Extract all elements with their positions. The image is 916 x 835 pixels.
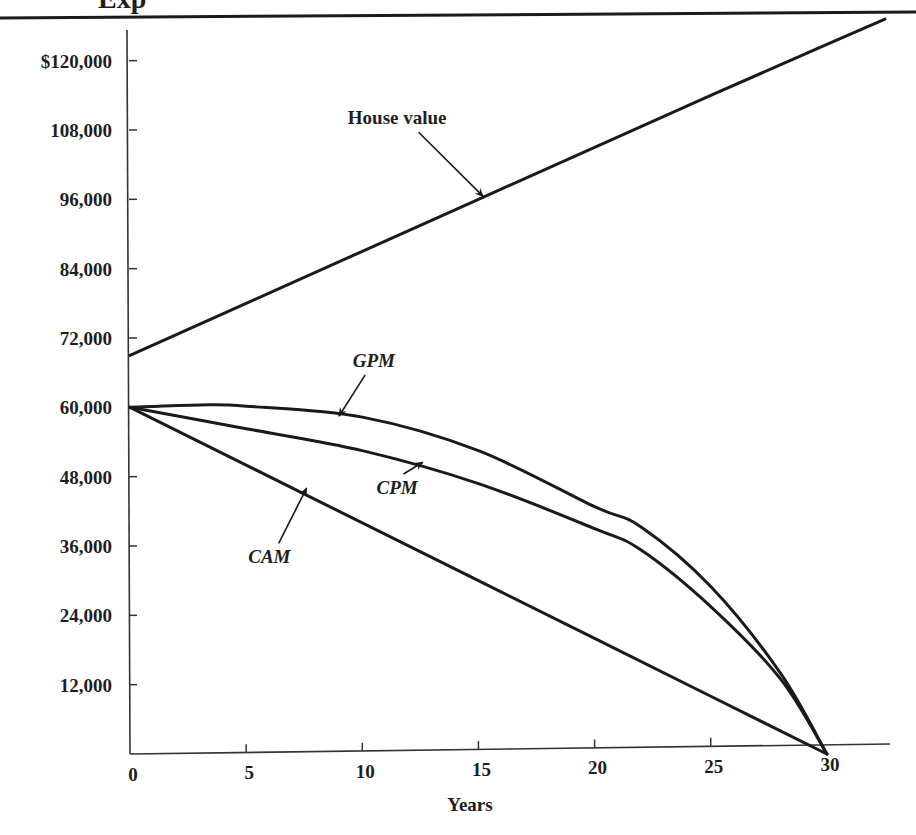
x-tick-label: 10 bbox=[356, 761, 375, 782]
y-tick-label: 108,000 bbox=[50, 120, 112, 141]
series-cam-line bbox=[130, 407, 827, 754]
x-tick-label: 20 bbox=[588, 757, 607, 778]
annotation-cpm-label: CPM bbox=[377, 477, 419, 498]
y-tick-label: 60,000 bbox=[60, 397, 112, 418]
x-axis-title: Years bbox=[447, 794, 492, 815]
y-tick-label: 72,000 bbox=[60, 328, 112, 349]
y-tick-label: 24,000 bbox=[60, 605, 112, 626]
series-layer bbox=[130, 19, 885, 754]
x-tick-label: 30 bbox=[820, 754, 839, 775]
annotation-gpm-label: GPM bbox=[353, 350, 396, 371]
x-tick-label: 5 bbox=[244, 762, 254, 783]
annotation-layer: House valueGPMCPMCAM bbox=[248, 107, 483, 567]
y-tick-label: 36,000 bbox=[60, 536, 112, 557]
mortgage-balance-chart: Exp 12,00024,00036,00048,00060,00072,000… bbox=[0, 0, 916, 835]
y-ticks: 12,00024,00036,00048,00060,00072,00084,0… bbox=[41, 51, 137, 696]
x-tick-label: 15 bbox=[472, 759, 491, 780]
annotation-arrow-icon bbox=[339, 375, 365, 416]
axes bbox=[127, 30, 890, 754]
x-tick-label: 25 bbox=[704, 756, 723, 777]
annotation-house-value-label: House value bbox=[348, 107, 447, 128]
y-tick-label: $120,000 bbox=[41, 51, 112, 72]
y-tick-label: 96,000 bbox=[60, 189, 112, 210]
y-tick-label: 48,000 bbox=[60, 467, 112, 488]
series-house-value-line bbox=[130, 19, 885, 355]
annotation-arrow-icon bbox=[419, 132, 483, 196]
y-tick-label: 84,000 bbox=[60, 259, 112, 280]
x-ticks: 051015202530 bbox=[128, 738, 839, 785]
x-tick-label: 0 bbox=[128, 764, 138, 785]
y-axis bbox=[127, 30, 130, 754]
annotation-cam-label: CAM bbox=[248, 546, 291, 567]
partial-header-title: Exp bbox=[98, 0, 146, 14]
x-axis bbox=[130, 744, 890, 754]
y-tick-label: 12,000 bbox=[60, 675, 112, 696]
annotation-arrow-icon bbox=[279, 488, 307, 543]
